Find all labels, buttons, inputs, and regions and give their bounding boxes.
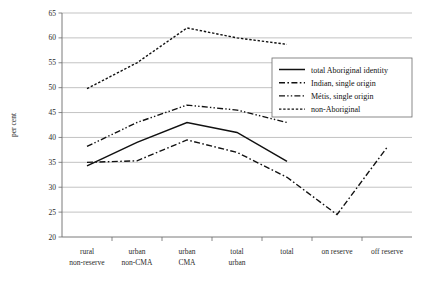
y-tick-label: 35	[49, 158, 57, 167]
y-axis-title: per cent	[9, 112, 18, 137]
y-tick-label: 30	[49, 183, 57, 192]
series-line	[87, 140, 387, 215]
legend-label: Métis, single origin	[311, 92, 373, 101]
y-tick-label: 25	[49, 208, 57, 217]
y-axis-tick-labels: 20253035404550556065	[49, 9, 57, 242]
x-axis-tick-marks	[112, 237, 362, 241]
x-category-label: total	[230, 247, 243, 256]
legend-label: non-Aboriginal	[311, 105, 361, 114]
x-category-label: CMA	[178, 258, 196, 267]
y-tick-label: 50	[49, 83, 57, 92]
x-category-label: urban	[178, 247, 195, 256]
y-tick-label: 55	[49, 58, 57, 67]
x-axis-category-labels: ruralnon-reserveurbannon-CMAurbanCMAtota…	[69, 247, 403, 267]
data-series-group	[87, 28, 387, 215]
x-category-label: on reserve	[321, 247, 353, 256]
chart-container: 20253035404550556065 ruralnon-reserveurb…	[0, 0, 424, 287]
y-tick-label: 45	[49, 108, 57, 117]
y-tick-label: 65	[49, 9, 57, 18]
x-category-label: total	[280, 247, 293, 256]
legend-label: total Aboriginal identity	[311, 66, 388, 75]
x-category-label: rural	[80, 247, 94, 256]
chart-legend: total Aboriginal identityIndian, single …	[272, 58, 412, 117]
series-line	[87, 28, 287, 89]
x-category-label: non-CMA	[122, 258, 153, 267]
legend-label: Indian, single origin	[311, 79, 376, 88]
line-chart: 20253035404550556065 ruralnon-reserveurb…	[0, 0, 424, 287]
y-tick-label: 60	[49, 33, 57, 42]
x-category-label: urban	[128, 247, 145, 256]
x-category-label: non-reserve	[69, 258, 105, 267]
x-category-label: off reserve	[371, 247, 404, 256]
y-axis-tick-marks	[59, 13, 63, 237]
x-category-label: urban	[228, 258, 245, 267]
y-tick-label: 40	[49, 133, 57, 142]
series-line	[87, 123, 287, 166]
y-tick-label: 20	[49, 233, 57, 242]
